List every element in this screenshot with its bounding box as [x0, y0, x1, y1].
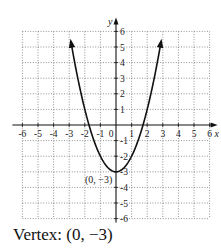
x-tick-label: 6 — [207, 129, 212, 139]
y-tick-label: 1 — [120, 105, 125, 115]
y-tick-label: -1 — [120, 136, 128, 146]
y-tick-label: 4 — [120, 58, 125, 68]
parabola-graph: -6-5-4-3-2-10123456 -6-5-4-3-2-1123456 x… — [0, 0, 221, 225]
x-tick-label: 0 — [109, 129, 114, 139]
y-tick-label: 3 — [120, 74, 125, 84]
x-tick-label: 1 — [129, 129, 134, 139]
x-tick-label: 3 — [160, 129, 165, 139]
y-tick-label: 6 — [120, 27, 125, 37]
y-tick-label: 2 — [120, 89, 125, 99]
vertex-caption: Vertex: (0, −3) — [13, 225, 113, 245]
y-tick-label: -2 — [120, 152, 128, 162]
x-tick-label: -4 — [50, 129, 58, 139]
y-tick-label: -4 — [120, 183, 128, 193]
x-tick-label: 4 — [176, 129, 181, 139]
y-tick-label: -5 — [120, 199, 128, 209]
x-tick-label: -2 — [81, 129, 89, 139]
vertex-annotation: (0, −3) — [85, 174, 112, 186]
x-tick-labels: -6-5-4-3-2-10123456 — [18, 129, 212, 139]
x-tick-label: 2 — [145, 129, 150, 139]
y-tick-label: -6 — [120, 214, 128, 224]
x-tick-label: 5 — [192, 129, 197, 139]
y-axis-arrow-icon — [114, 17, 119, 24]
x-axis-arrow-icon — [211, 123, 218, 128]
y-tick-label: -3 — [120, 167, 128, 177]
y-axis-label: y — [107, 16, 113, 27]
left-arrow-icon — [69, 39, 75, 48]
axes — [12, 17, 217, 222]
x-tick-label: -1 — [96, 129, 104, 139]
x-tick-label: -3 — [65, 129, 73, 139]
x-tick-label: -5 — [34, 129, 42, 139]
x-axis-label: x — [214, 128, 220, 139]
right-arrow-icon — [157, 39, 163, 48]
x-tick-label: -6 — [18, 129, 26, 139]
y-tick-label: 5 — [120, 43, 125, 53]
